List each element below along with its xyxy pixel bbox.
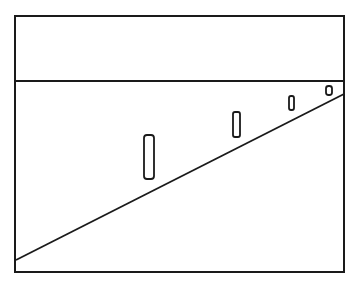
- post-2: [233, 112, 240, 137]
- posts-group: [144, 86, 332, 179]
- perspective-diagram: [0, 0, 356, 289]
- post-1: [144, 135, 154, 179]
- outer-frame: [15, 16, 344, 272]
- post-3: [289, 96, 294, 110]
- slope-line: [16, 94, 344, 260]
- post-4: [326, 86, 332, 95]
